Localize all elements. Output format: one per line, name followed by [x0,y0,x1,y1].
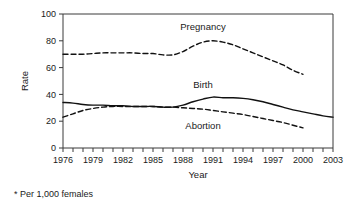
x-tick-label: 1982 [113,155,133,165]
series-annotations: PregnancyBirthAbortion [180,21,226,131]
x-tick-label: 1997 [263,155,283,165]
y-axis-ticks [59,14,63,148]
line-chart: 020406080100 197619791982198519881991199… [0,0,356,206]
y-axis-tick-labels: 020406080100 [41,9,56,153]
x-axis-tick-labels: 1976197919821985198819911994199720002003 [53,155,343,165]
x-tick-label: 2000 [293,155,313,165]
y-tick-label: 20 [46,116,56,126]
x-tick-label: 1988 [173,155,193,165]
series-line-pregnancy [63,41,303,75]
x-tick-label: 1985 [143,155,163,165]
y-tick-label: 100 [41,9,56,19]
series-label-birth: Birth [193,79,213,90]
y-tick-label: 40 [46,90,56,100]
y-tick-label: 60 [46,63,56,73]
x-axis-ticks [63,148,333,152]
y-tick-label: 80 [46,36,56,46]
chart-page: 020406080100 197619791982198519881991199… [0,0,356,206]
footnote: * Per 1,000 females [14,189,94,199]
series-label-pregnancy: Pregnancy [180,21,226,32]
x-axis-title: Year [188,169,207,180]
x-tick-label: 1994 [233,155,253,165]
series-label-abortion: Abortion [185,120,220,131]
y-axis-title: Rate [19,71,30,91]
x-tick-label: 1976 [53,155,73,165]
y-tick-label: 0 [51,143,56,153]
x-tick-label: 1991 [203,155,223,165]
series-line-abortion [63,106,303,127]
x-tick-label: 1979 [83,155,103,165]
x-tick-label: 2003 [323,155,343,165]
